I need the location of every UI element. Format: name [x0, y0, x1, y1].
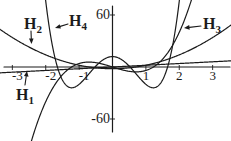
y-tick-label: 60 — [96, 7, 110, 22]
curve-H4 — [0, 0, 231, 88]
x-tick-label: -3 — [12, 68, 23, 83]
annotation-label-sub-H2: 2 — [36, 23, 42, 35]
hermite-plot: -3-2-112360-60H2H4H3H1 — [0, 0, 231, 141]
x-tick-label: 2 — [176, 68, 183, 83]
hermite-polynomials-figure: -3-2-112360-60H2H4H3H1 — [0, 0, 231, 141]
annotation-arrow-line-H3 — [189, 26, 201, 27]
annotation-arrow-head-H4 — [55, 24, 61, 28]
annotation-arrow-line-H1 — [25, 76, 26, 85]
annotation-label-sub-H3: 3 — [215, 23, 221, 35]
annotation-label-sub-H1: 1 — [28, 94, 34, 106]
annotation-label-H4: H4 — [69, 12, 87, 32]
annotation-arrow-line-H4 — [60, 24, 68, 26]
annotation-label-H1: H1 — [16, 86, 34, 106]
y-tick-label: -60 — [91, 111, 110, 126]
annotation-arrow-head-H3 — [184, 25, 190, 30]
annotation-arrow-head-H2 — [29, 38, 34, 44]
annotation-label-H3: H3 — [203, 15, 221, 35]
annotation-label-sub-H4: 4 — [81, 20, 87, 32]
annotation-label-H2: H2 — [24, 15, 42, 35]
x-tick-label: 3 — [209, 68, 216, 83]
